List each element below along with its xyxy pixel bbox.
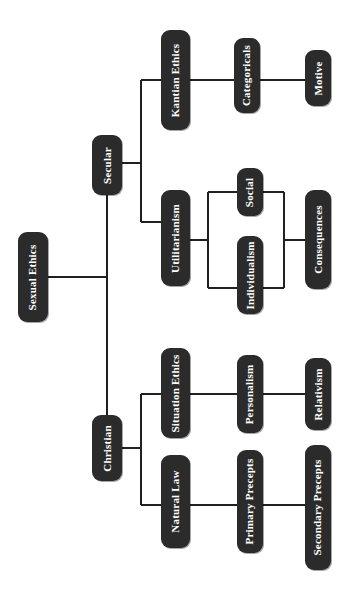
node-sexual-ethics[interactable]: Sexual Ethics	[18, 232, 48, 322]
node-secondary-precepts[interactable]: Secondary Precepts	[305, 445, 331, 570]
node-label: Natural Law	[170, 470, 181, 532]
node-label: Secondary Precepts	[313, 460, 324, 556]
node-kantian-ethics[interactable]: Kantian Ethics	[161, 30, 190, 130]
node-label: Situation Ethics	[170, 354, 181, 432]
node-motive[interactable]: Motive	[305, 50, 331, 106]
node-label: Social	[245, 177, 256, 206]
node-label: Consequences	[313, 205, 324, 273]
node-label: Kantian Ethics	[170, 43, 181, 116]
node-label: Personalism	[245, 364, 256, 424]
node-label: Individualism	[245, 241, 256, 309]
ethics-tree-diagram: Sexual Ethics Secular Christian Kantian …	[0, 0, 352, 597]
node-utilitarianism[interactable]: Utilitarianism	[161, 190, 190, 286]
node-label: Sexual Ethics	[28, 244, 39, 310]
node-label: Christian	[102, 425, 113, 471]
node-label: Relativism	[313, 368, 324, 420]
node-primary-precepts[interactable]: Primary Precepts	[237, 450, 263, 553]
node-label: Motive	[313, 61, 324, 95]
node-personalism[interactable]: Personalism	[237, 355, 263, 433]
node-situation-ethics[interactable]: Situation Ethics	[161, 348, 190, 438]
node-label: Categoricals	[242, 45, 253, 106]
node-christian[interactable]: Christian	[92, 415, 122, 481]
node-relativism[interactable]: Relativism	[305, 358, 331, 430]
node-label: Secular	[102, 147, 113, 184]
node-label: Utilitarianism	[170, 204, 181, 273]
node-natural-law[interactable]: Natural Law	[161, 455, 190, 548]
node-consequences[interactable]: Consequences	[305, 190, 331, 289]
node-label: Primary Precepts	[245, 459, 256, 545]
node-categoricals[interactable]: Categoricals	[234, 38, 260, 113]
node-secular[interactable]: Secular	[92, 135, 122, 195]
node-social[interactable]: Social	[237, 168, 263, 216]
node-individualism[interactable]: Individualism	[237, 236, 263, 314]
